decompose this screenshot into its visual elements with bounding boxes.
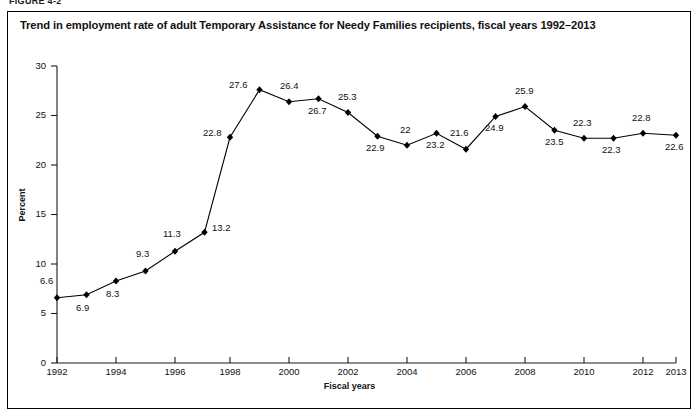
figure-number: FIGURE 4-2 xyxy=(9,0,62,6)
figure-border xyxy=(7,11,691,409)
figure-title: Trend in employment rate of adult Tempor… xyxy=(20,19,596,31)
